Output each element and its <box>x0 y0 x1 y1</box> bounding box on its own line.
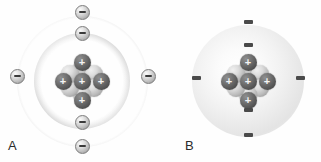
electron-outer-bottom <box>75 139 90 154</box>
electron-charge-top-inner <box>244 43 253 47</box>
plus-glyph: + <box>245 94 251 105</box>
plus-glyph: + <box>60 75 66 86</box>
minus-glyph <box>79 11 86 13</box>
plus-glyph: + <box>245 75 251 86</box>
plus-glyph: + <box>79 94 85 105</box>
proton: + <box>240 92 257 109</box>
proton: + <box>74 73 91 90</box>
electron-charge-top-outer <box>244 20 253 24</box>
minus-glyph <box>79 145 86 147</box>
panel-label-a: A <box>8 138 17 153</box>
proton: + <box>55 73 72 90</box>
proton: + <box>240 73 257 90</box>
minus-glyph <box>14 75 21 77</box>
electron-charge-bottom-inner <box>244 108 253 112</box>
electron-charge-right <box>296 76 305 80</box>
plus-glyph: + <box>79 75 85 86</box>
plus-glyph: + <box>98 75 104 86</box>
minus-glyph <box>145 75 152 77</box>
minus-glyph <box>79 121 86 123</box>
proton: + <box>74 92 91 109</box>
electron-charge-bottom-outer <box>244 133 253 137</box>
proton: + <box>74 54 91 71</box>
plus-glyph: + <box>245 56 251 67</box>
proton: + <box>93 73 110 90</box>
plus-glyph: + <box>226 75 232 86</box>
electron-inner-bottom <box>75 115 90 130</box>
plus-glyph: + <box>264 75 270 86</box>
panel-bohr-model: +++++ A <box>0 0 161 162</box>
plus-glyph: + <box>79 56 85 67</box>
electron-charge-left <box>192 76 201 80</box>
nucleus: +++++ <box>225 58 271 104</box>
nucleus: +++++ <box>59 58 105 104</box>
proton: + <box>240 54 257 71</box>
panel-label-b: B <box>185 138 194 153</box>
panel-electron-cloud-model: +++++ B <box>160 0 321 162</box>
proton: + <box>221 73 238 90</box>
minus-glyph <box>79 32 86 34</box>
electron-outer-left <box>10 69 25 84</box>
proton: + <box>259 73 276 90</box>
electron-outer-right <box>141 69 156 84</box>
electron-outer-top <box>75 5 90 20</box>
electron-inner-top <box>75 26 90 41</box>
